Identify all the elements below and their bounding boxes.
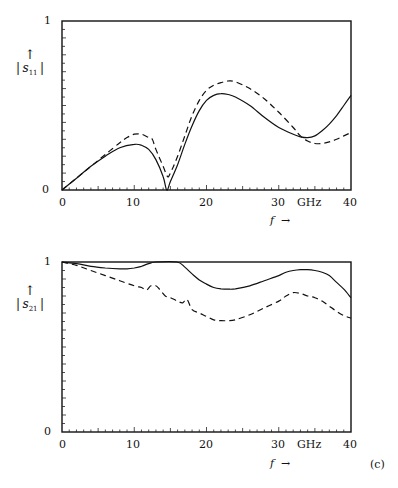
s11-y-axis-label: ↑ | s11 | bbox=[15, 48, 45, 78]
s21-y-axis-label: ↑ | s21 | bbox=[15, 284, 45, 314]
right-arrow-icon: → bbox=[281, 214, 290, 227]
s21-y-bottom-label: 0 bbox=[44, 426, 51, 437]
figure bbox=[0, 0, 398, 488]
series-dashed-line bbox=[62, 262, 351, 321]
s21-plot bbox=[62, 262, 351, 432]
s11-x-tick-0: 0 bbox=[59, 197, 66, 208]
s11-x-symbol: f bbox=[270, 214, 274, 227]
up-arrow-icon: ↑ bbox=[15, 48, 45, 62]
series-solid-line bbox=[62, 262, 351, 298]
plot-frame bbox=[62, 262, 351, 432]
s21-subscript: 21 bbox=[29, 306, 38, 314]
s11-x-tick-10: 10 bbox=[126, 197, 140, 208]
s11-x-tick-20: 20 bbox=[199, 197, 213, 208]
s21-x-tick-20: 20 bbox=[199, 439, 213, 450]
s11-x-tick-40: 40 bbox=[343, 197, 357, 208]
s11-x-tick-30: 30 bbox=[271, 197, 285, 208]
s21-x-tick-0: 0 bbox=[59, 439, 66, 450]
figure-label: (c) bbox=[370, 459, 385, 470]
s21-x-symbol: f bbox=[270, 457, 274, 470]
plot-frame bbox=[62, 21, 351, 190]
s11-y-top-label: 1 bbox=[44, 15, 51, 26]
s21-x-tick-40: 40 bbox=[343, 439, 357, 450]
s11-y-bottom-label: 0 bbox=[42, 184, 49, 195]
s21-y-top-label: 1 bbox=[44, 256, 51, 267]
s21-x-tick-10: 10 bbox=[126, 439, 140, 450]
up-arrow-icon: ↑ bbox=[15, 284, 45, 298]
right-arrow-icon: → bbox=[281, 457, 290, 470]
s21-x-tick-30: 30 bbox=[271, 439, 285, 450]
s21-x-unit: GHz bbox=[297, 439, 321, 450]
s11-plot bbox=[62, 21, 351, 190]
s11-subscript: 11 bbox=[29, 70, 38, 78]
series-solid-line bbox=[62, 94, 351, 190]
s21-x-axis-label: f → bbox=[270, 458, 290, 469]
s11-x-unit: GHz bbox=[297, 197, 321, 208]
s11-x-axis-label: f → bbox=[270, 215, 290, 226]
series-dashed-line bbox=[62, 81, 351, 190]
